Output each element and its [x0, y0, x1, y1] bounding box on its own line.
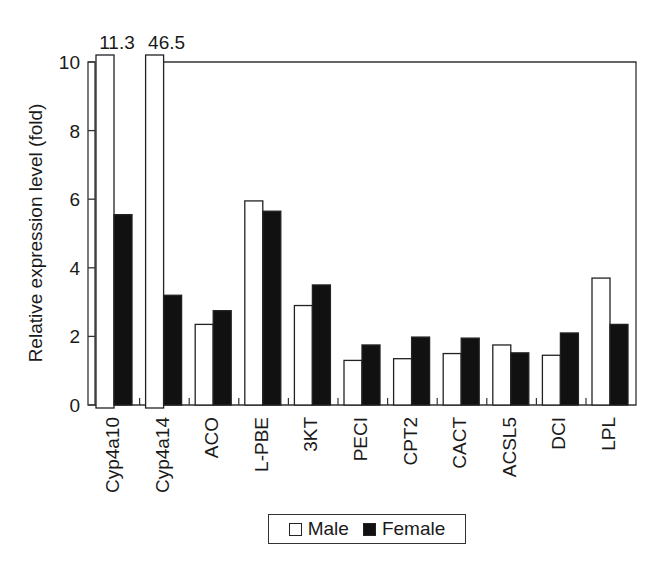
bars — [96, 55, 628, 408]
bar-cyp4a14-female — [164, 295, 182, 405]
bar-lpl-male — [592, 278, 610, 405]
bar-peci-female — [362, 345, 380, 405]
bar-cpt2-male — [394, 359, 412, 405]
bar-cpt2-female — [412, 337, 430, 405]
bar-3kt-male — [294, 306, 312, 405]
y-tick-label: 4 — [69, 258, 80, 279]
y-tick-label: 2 — [69, 326, 80, 347]
bar-3kt-female — [312, 285, 330, 405]
legend-item-female: Female — [363, 518, 445, 540]
bar-lpl-female — [610, 324, 628, 405]
bar-chart: 11.346.5 Cyp4a10Cyp4a14ACOL-PBE3KTPECICP… — [0, 0, 664, 565]
bar-cyp4a10-male — [96, 55, 114, 408]
y-tick-label: 8 — [69, 121, 80, 142]
female-swatch-icon — [363, 523, 376, 536]
y-tick-labels: 0246810 — [59, 52, 81, 416]
x-tick-label: PECI — [350, 417, 371, 461]
x-tick-labels: Cyp4a10Cyp4a14ACOL-PBE3KTPECICPT2CACTACS… — [102, 417, 619, 493]
x-tick-label: ACO — [201, 417, 222, 458]
x-tick-label: ACSL5 — [499, 417, 520, 477]
x-tick-label: CPT2 — [400, 417, 421, 466]
x-tick-label: CACT — [449, 417, 470, 469]
x-tick-label: Cyp4a10 — [102, 417, 123, 493]
legend-label-male: Male — [308, 518, 349, 540]
bar-l-pbe-male — [245, 201, 263, 405]
x-tick-label: LPL — [598, 417, 619, 451]
bar-cact-female — [461, 338, 479, 405]
legend-label-female: Female — [382, 518, 445, 540]
bar-aco-male — [195, 324, 213, 405]
male-swatch-icon — [289, 523, 302, 536]
y-axis-label: Relative expression level (fold) — [25, 104, 46, 363]
bar-peci-male — [344, 360, 362, 405]
bar-l-pbe-female — [263, 211, 281, 405]
x-tick-label: DCI — [548, 417, 569, 450]
bar-aco-female — [213, 311, 231, 405]
x-tick-label: Cyp4a14 — [152, 417, 173, 493]
y-axis-frame — [88, 62, 95, 405]
y-tick-label: 6 — [69, 189, 80, 210]
bar-acsl5-female — [511, 353, 529, 405]
x-tick-label: L-PBE — [251, 417, 272, 472]
legend-item-male: Male — [289, 518, 349, 540]
y-tick-label: 0 — [69, 395, 80, 416]
bar-acsl5-male — [493, 345, 511, 405]
bar-dci-female — [560, 333, 578, 405]
legend: Male Female — [268, 514, 466, 544]
x-tick-label: 3KT — [300, 417, 321, 452]
bar-cact-male — [443, 354, 461, 405]
break-value-label: 46.5 — [148, 32, 185, 53]
break-value-label: 11.3 — [99, 32, 135, 53]
bar-cyp4a14-male — [146, 55, 164, 408]
bar-dci-male — [542, 355, 560, 405]
y-tick-label: 10 — [59, 52, 80, 73]
bar-cyp4a10-female — [114, 215, 132, 405]
